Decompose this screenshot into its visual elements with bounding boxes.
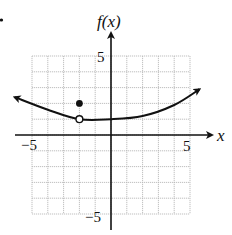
- filled-point: [76, 100, 83, 107]
- x-min-tick-label: −5: [21, 137, 37, 153]
- y-min-tick-label: −5: [85, 209, 101, 225]
- y-max-tick-label: 5: [97, 49, 105, 65]
- graph: f(x) x −5 5 5 −5: [0, 0, 232, 235]
- open-circle-hole: [76, 116, 83, 123]
- bullet-dot: [0, 18, 3, 21]
- y-axis-label: f(x): [97, 12, 121, 31]
- x-axis-label: x: [216, 126, 225, 145]
- x-max-tick-label: 5: [183, 138, 191, 154]
- function-curve: [15, 89, 200, 120]
